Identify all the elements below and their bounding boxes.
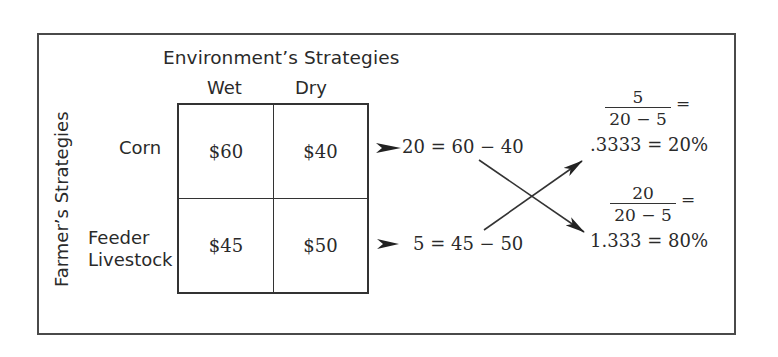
difference-corn: 20 = 60 − 40 (402, 138, 524, 156)
result-livestock: 1.333 = 80% (590, 232, 708, 250)
fraction-denominator: 20 − 5 (610, 206, 676, 224)
arrows-layer (0, 0, 778, 357)
fraction-equals: = (681, 191, 695, 208)
fraction-bar (605, 107, 671, 108)
fraction-corn: 5 20 − 5 (605, 88, 671, 128)
fraction-equals: = (676, 95, 690, 112)
row-arrow-icon-livestock (377, 239, 399, 249)
fraction-denominator: 20 − 5 (605, 110, 671, 128)
fraction-livestock: 20 20 − 5 (610, 184, 676, 224)
result-corn: .3333 = 20% (590, 136, 708, 154)
row-arrow-icon-corn (376, 143, 401, 153)
fraction-numerator: 20 (610, 184, 676, 202)
difference-livestock: 5 = 45 − 50 (413, 235, 523, 253)
fraction-bar (610, 203, 676, 204)
fraction-numerator: 5 (605, 88, 671, 106)
